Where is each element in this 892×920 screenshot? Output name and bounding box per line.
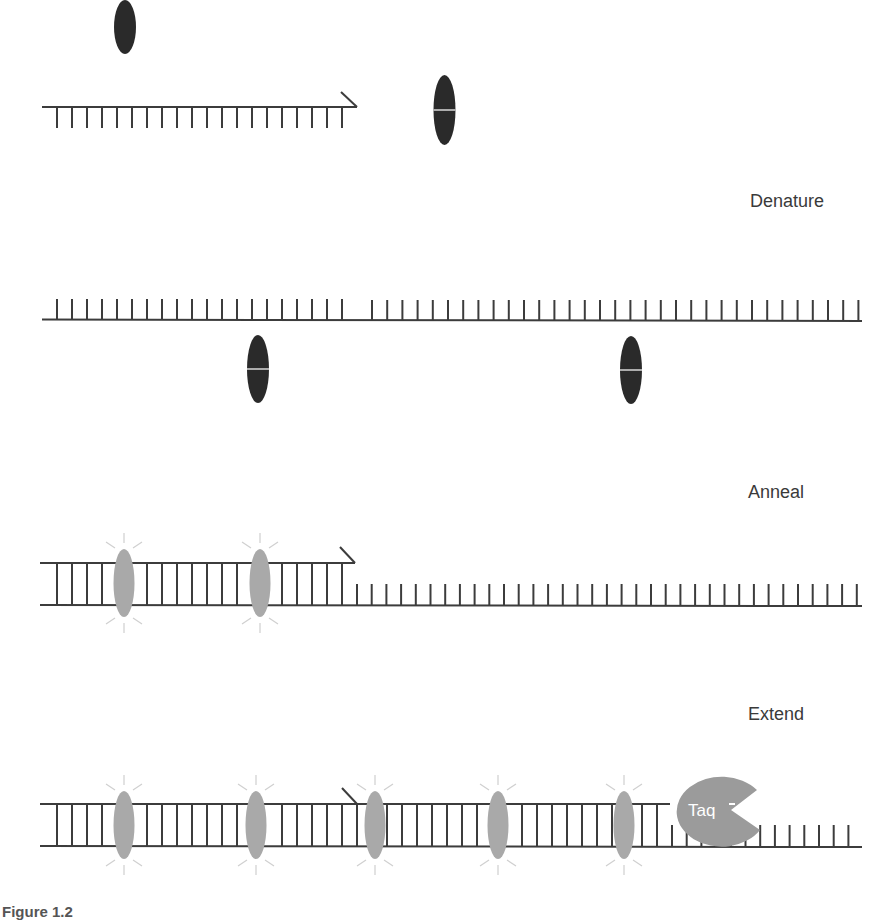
released-probe-4	[480, 775, 516, 875]
released-probe-2	[242, 533, 278, 633]
figure-caption: Figure 1.2	[2, 903, 73, 920]
taq-label: Taq	[688, 801, 715, 820]
step-label-extend: Extend	[748, 705, 804, 723]
primer-strand	[42, 92, 357, 128]
section-denature	[42, 299, 862, 404]
free-probe-1	[114, 0, 136, 54]
released-probe-1	[106, 775, 142, 875]
bound-probe-2	[620, 336, 642, 404]
bound-probe-1	[247, 335, 269, 403]
taq-polymerase: Taq	[677, 777, 760, 847]
section-anneal	[40, 533, 862, 633]
anneal-duplex	[40, 547, 862, 606]
section-extend: Taq	[40, 775, 862, 875]
step-label-denature: Denature	[750, 192, 824, 210]
template-strand	[42, 299, 862, 321]
released-probe-1	[106, 533, 142, 633]
step-label-anneal: Anneal	[748, 483, 804, 501]
section-initial	[42, 0, 456, 145]
released-probe-2	[238, 775, 274, 875]
free-probe-2	[434, 75, 456, 145]
